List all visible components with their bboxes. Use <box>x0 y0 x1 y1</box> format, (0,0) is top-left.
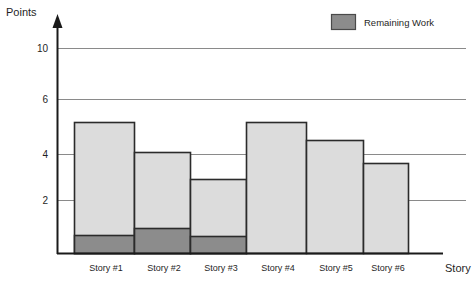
legend-label-remaining-work: Remaining Work <box>364 17 434 28</box>
bar-group-story-4[interactable] <box>247 123 307 254</box>
y-tick-label-10: 10 <box>37 43 49 54</box>
y-axis-title: Points <box>6 6 37 18</box>
y-tick-label-6: 6 <box>42 94 48 105</box>
bar-remaining-story-3[interactable] <box>191 237 247 254</box>
legend-swatch-remaining-work <box>332 15 356 30</box>
bar-total-story-4[interactable] <box>247 123 307 254</box>
x-category-label-story-2: Story #2 <box>147 263 181 273</box>
x-category-label-story-3: Story #3 <box>204 263 238 273</box>
bar-total-story-5[interactable] <box>307 141 364 254</box>
bar-total-story-6[interactable] <box>364 164 409 254</box>
bar-total-story-1[interactable] <box>75 123 135 254</box>
x-category-label-story-1: Story #1 <box>89 263 123 273</box>
y-tick-label-2: 2 <box>42 195 48 206</box>
x-category-label-story-4: Story #4 <box>261 263 295 273</box>
bar-group-story-3[interactable] <box>191 180 247 254</box>
y-tick-label-4: 4 <box>42 149 48 160</box>
x-axis-title: Story <box>445 262 471 274</box>
legend: Remaining Work <box>332 15 435 30</box>
bar-group-story-2[interactable] <box>135 153 191 254</box>
bar-group-story-1[interactable] <box>75 123 135 254</box>
stacked-bar-chart: 10 6 4 2 Points Story Story #1 Story #2 … <box>0 0 474 284</box>
x-category-label-story-6: Story #6 <box>371 263 405 273</box>
x-category-label-story-5: Story #5 <box>319 263 353 273</box>
chart-container: 10 6 4 2 Points Story Story #1 Story #2 … <box>0 0 474 284</box>
bar-group-story-6[interactable] <box>364 164 409 254</box>
bar-group-story-5[interactable] <box>307 141 364 254</box>
bar-remaining-story-1[interactable] <box>75 236 135 254</box>
bar-remaining-story-2[interactable] <box>135 229 191 254</box>
